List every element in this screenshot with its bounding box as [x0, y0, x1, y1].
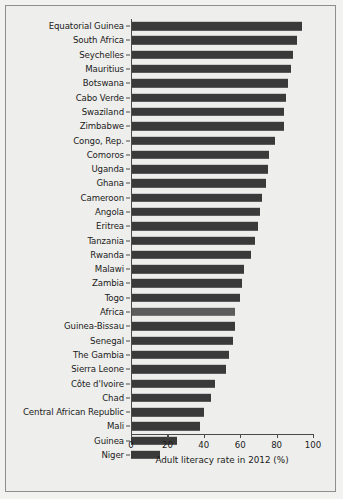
- bar-row: Cabo Verde: [6, 90, 337, 104]
- y-axis-tick: [126, 183, 130, 184]
- y-axis-tick: [126, 455, 130, 456]
- category-label: Equatorial Guinea: [49, 22, 124, 31]
- bar-row: Mali: [6, 419, 337, 433]
- category-label: Tanzania: [87, 236, 124, 245]
- y-axis-tick: [126, 340, 130, 341]
- bar: [131, 408, 204, 416]
- y-axis-tick: [126, 226, 130, 227]
- category-label: Central African Republic: [23, 408, 124, 417]
- bar-row: Africa: [6, 305, 337, 319]
- bar: [131, 279, 242, 287]
- bar-row: Zambia: [6, 276, 337, 290]
- category-label: Malawi: [95, 265, 124, 274]
- bar: [131, 179, 266, 187]
- bar: [131, 93, 286, 101]
- x-axis-tick: [131, 434, 132, 438]
- category-label: Cabo Verde: [76, 93, 124, 102]
- bar: [131, 122, 284, 130]
- x-axis-tick: [167, 434, 168, 438]
- bar-row: Comoros: [6, 148, 337, 162]
- y-axis-tick: [126, 126, 130, 127]
- y-axis-tick: [126, 269, 130, 270]
- category-label: Eritrea: [96, 222, 124, 231]
- bar: [131, 79, 288, 87]
- bar: [131, 265, 244, 273]
- bar-row: The Gambia: [6, 348, 337, 362]
- x-axis-line: [131, 434, 313, 435]
- bar: [131, 236, 255, 244]
- category-label: Sierra Leone: [71, 365, 124, 374]
- bar: [131, 422, 200, 430]
- category-label: Seychelles: [79, 50, 124, 59]
- bar-row: Malawi: [6, 262, 337, 276]
- category-label: Uganda: [91, 165, 124, 174]
- y-axis-tick: [126, 240, 130, 241]
- y-axis-tick: [126, 354, 130, 355]
- category-label: Zimbabwe: [80, 122, 124, 131]
- bar: [131, 108, 284, 116]
- bar: [131, 294, 240, 302]
- bar: [131, 365, 226, 373]
- bar-row: Togo: [6, 291, 337, 305]
- category-label: The Gambia: [73, 351, 124, 360]
- y-axis-tick: [126, 154, 130, 155]
- bar: [131, 194, 262, 202]
- y-axis-tick: [126, 54, 130, 55]
- category-label: Swaziland: [82, 108, 124, 117]
- bar-row: Central African Republic: [6, 405, 337, 419]
- y-axis-tick: [126, 397, 130, 398]
- category-label: Ghana: [96, 179, 124, 188]
- bars-area: Equatorial GuineaSouth AfricaSeychellesM…: [6, 19, 337, 434]
- bar: [131, 208, 260, 216]
- y-axis-tick: [126, 40, 130, 41]
- bar-row: Guinea-Bissau: [6, 319, 337, 333]
- category-label: Comoros: [87, 151, 124, 160]
- category-label: South Africa: [73, 36, 124, 45]
- bar: [131, 308, 235, 316]
- y-axis-tick: [126, 254, 130, 255]
- bar: [131, 65, 291, 73]
- bar-row: South Africa: [6, 33, 337, 47]
- y-axis-tick: [126, 69, 130, 70]
- x-axis-tick-label: 20: [162, 440, 173, 450]
- bar: [131, 379, 215, 387]
- y-axis-tick: [126, 140, 130, 141]
- bar: [131, 351, 229, 359]
- bar-row: Senegal: [6, 334, 337, 348]
- bar-row: Swaziland: [6, 105, 337, 119]
- y-axis-tick: [126, 26, 130, 27]
- category-label: Cameroon: [81, 193, 124, 202]
- y-axis-tick: [126, 212, 130, 213]
- bar: [131, 136, 275, 144]
- x-axis-tick: [277, 434, 278, 438]
- y-axis-tick: [126, 169, 130, 170]
- x-axis-title: Adult literacy rate in 2012 (%): [131, 455, 313, 465]
- x-axis-tick: [240, 434, 241, 438]
- bar-row: Zimbabwe: [6, 119, 337, 133]
- y-axis-tick: [126, 111, 130, 112]
- category-label: Mauritius: [85, 65, 124, 74]
- bar-row: Congo, Rep.: [6, 133, 337, 147]
- bar-row: Mauritius: [6, 62, 337, 76]
- y-axis-tick: [126, 297, 130, 298]
- bar-row: Tanzania: [6, 233, 337, 247]
- x-axis-tick: [313, 434, 314, 438]
- bar: [131, 251, 251, 259]
- bar: [131, 51, 293, 59]
- bar-row: Uganda: [6, 162, 337, 176]
- bar: [131, 22, 302, 30]
- y-axis-tick: [126, 369, 130, 370]
- bar-row: Sierra Leone: [6, 362, 337, 376]
- bar: [131, 222, 258, 230]
- category-label: Angola: [95, 208, 124, 217]
- category-label: Togo: [105, 293, 124, 302]
- y-axis-tick: [126, 412, 130, 413]
- category-label: Mali: [107, 422, 124, 431]
- bar-row: Angola: [6, 205, 337, 219]
- category-label: Chad: [102, 394, 124, 403]
- chart-frame: Equatorial GuineaSouth AfricaSeychellesM…: [5, 5, 336, 492]
- bar-row: Seychelles: [6, 48, 337, 62]
- category-label: Côte d'Ivoire: [71, 379, 124, 388]
- y-axis-tick: [126, 312, 130, 313]
- x-axis-tick-label: 0: [128, 440, 133, 450]
